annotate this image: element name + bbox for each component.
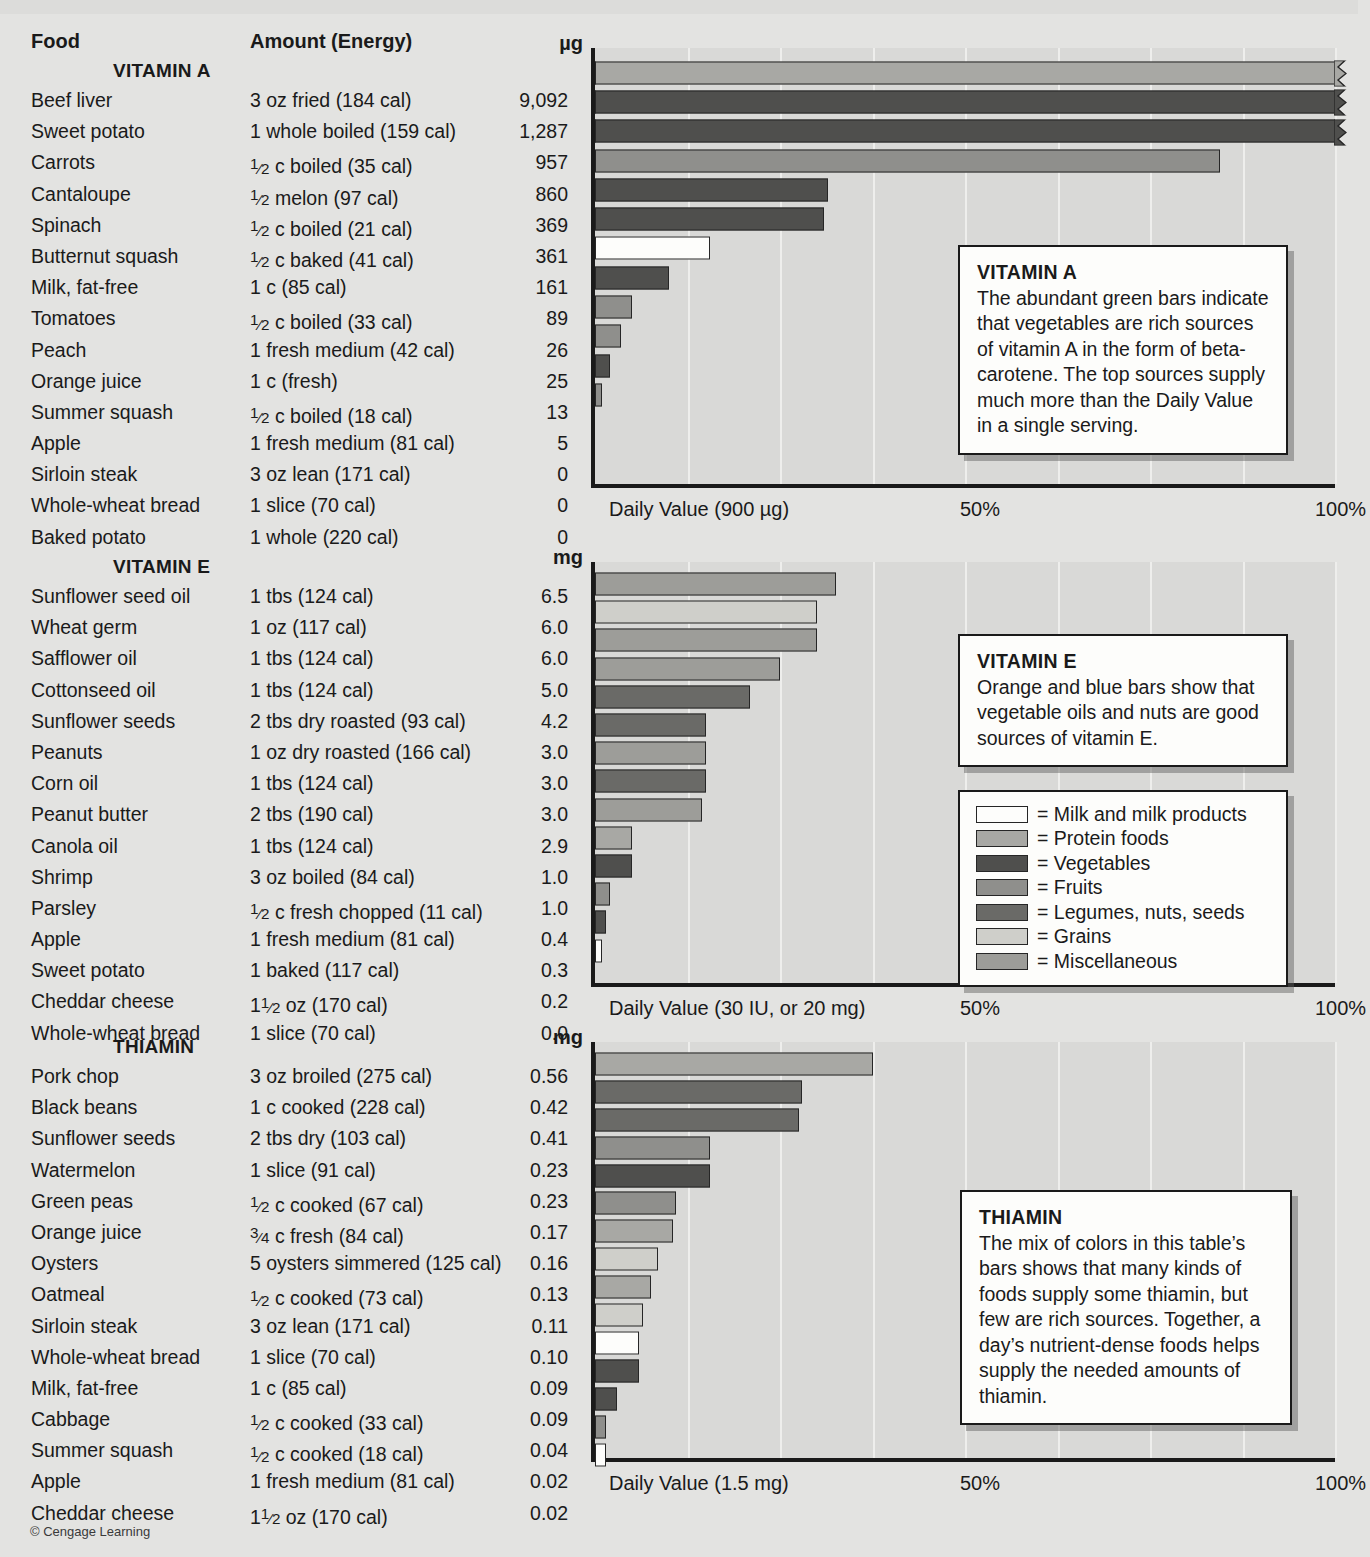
table-row: Whole-wheat bread1 slice (70 cal)0 [0,490,578,521]
legend-swatch-grain [976,928,1028,945]
bar-row [595,598,1335,626]
row-value: 0.09 [530,1404,568,1435]
bar [595,266,669,289]
row-value: 369 [535,210,568,241]
row-value: 957 [535,147,568,178]
row-value: 0.3 [541,955,568,986]
legend-item-grain: = Grains [976,925,1272,950]
bar [595,1164,710,1187]
table-vitamin-e: VITAMIN E Sunflower seed oil1 tbs (124 c… [0,552,578,1049]
bar [595,855,632,878]
bar [595,90,1335,113]
table-row: Apple1 fresh medium (81 cal)0.02 [0,1466,578,1497]
bar-row [595,175,1335,204]
row-food-name: Summer squash [31,397,173,428]
legend-item-misc: = Miscellaneous [976,949,1272,974]
row-value: 9,092 [519,85,568,116]
row-value: 0.56 [530,1061,568,1092]
table-row: Sweet potato1 baked (117 cal)0.3 [0,955,578,986]
row-food-name: Sunflower seeds [31,1123,175,1154]
row-amount: 1 fresh medium (81 cal) [250,428,455,459]
bar [595,325,621,348]
row-value: 3.0 [541,799,568,830]
table-row: Peach1 fresh medium (42 cal)26 [0,335,578,366]
row-food-name: Milk, fat-free [31,1373,138,1404]
row-amount: 1 fresh medium (81 cal) [250,924,455,955]
row-amount: 3 oz boiled (84 cal) [250,862,415,893]
row-amount: 1 fresh medium (81 cal) [250,1466,455,1497]
table-row: Cabbage1⁄2 c cooked (33 cal)0.09 [0,1404,578,1435]
table-row: Beef liver3 oz fried (184 cal)9,092 [0,85,578,116]
row-food-name: Cottonseed oil [31,675,156,706]
legend-label: = Vegetables [1037,852,1150,875]
table-row: Black beans1 c cooked (228 cal)0.42 [0,1092,578,1123]
table-row: Corn oil1 tbs (124 cal)3.0 [0,768,578,799]
table-row: Apple1 fresh medium (81 cal)0.4 [0,924,578,955]
row-amount: 1 tbs (124 cal) [250,675,374,706]
bar-row [595,1050,1335,1078]
row-amount: 1 slice (91 cal) [250,1155,376,1186]
row-food-name: Beef liver [31,85,112,116]
row-value: 1.0 [541,893,568,924]
table-row: Watermelon1 slice (91 cal)0.23 [0,1155,578,1186]
row-value: 0.02 [530,1498,568,1529]
callout-thiamin: THIAMIN The mix of colors in this table’… [960,1190,1292,1425]
legend-swatch-milk [976,806,1028,823]
legend-label: = Fruits [1037,876,1103,899]
bar [595,178,828,201]
table-row: Summer squash1⁄2 c boiled (18 cal)13 [0,397,578,428]
bar [595,742,706,765]
row-value: 0.41 [530,1123,568,1154]
table-row: Cottonseed oil1 tbs (124 cal)5.0 [0,675,578,706]
legend-swatch-leg [976,904,1028,921]
legend-label: = Legumes, nuts, seeds [1037,901,1245,924]
bar [595,383,602,406]
row-amount: 3 oz lean (171 cal) [250,459,410,490]
row-food-name: Sunflower seed oil [31,581,190,612]
row-amount: 1 c cooked (228 cal) [250,1092,426,1123]
row-amount: 1 oz dry roasted (166 cal) [250,737,471,768]
bar [595,657,780,680]
bar [595,1387,617,1410]
gridline [1335,562,1337,983]
row-food-name: Orange juice [31,1217,142,1248]
row-value: 1.0 [541,862,568,893]
axis-tick-50: 50% [960,1472,1000,1495]
bar [595,883,610,906]
row-food-name: Oatmeal [31,1279,105,1310]
row-amount: 1 tbs (124 cal) [250,643,374,674]
row-value: 5.0 [541,675,568,706]
bar [595,1331,639,1354]
row-food-name: Butternut squash [31,241,178,272]
bar [595,1192,676,1215]
legend-item-prot: = Protein foods [976,827,1272,852]
bar [595,939,602,962]
table-row: Baked potato1 whole (220 cal)0 [0,522,578,553]
table-row: Green peas1⁄2 c cooked (67 cal)0.23 [0,1186,578,1217]
table-row: Peanuts1 oz dry roasted (166 cal)3.0 [0,737,578,768]
legend-label: = Milk and milk products [1037,803,1247,826]
row-food-name: Oysters [31,1248,98,1279]
table-row: Safflower oil1 tbs (124 cal)6.0 [0,643,578,674]
row-amount: 3 oz lean (171 cal) [250,1311,410,1342]
row-food-name: Black beans [31,1092,137,1123]
row-amount: 1 tbs (124 cal) [250,581,374,612]
row-food-name: Shrimp [31,862,93,893]
table-row: Sunflower seed oil1 tbs (124 cal)6.5 [0,581,578,612]
bar-row [595,58,1335,87]
axis-tick-50: 50% [960,498,1000,521]
chart-unit-label: mg [523,1026,583,1049]
axis-break-zigzag-icon [1334,61,1347,87]
row-food-name: Wheat germ [31,612,137,643]
table-row: Whole-wheat bread1 slice (70 cal)0.10 [0,1342,578,1373]
row-value: 0.11 [531,1311,568,1342]
row-value: 860 [535,179,568,210]
chart-unit-label: µg [523,32,583,55]
row-value: 3.0 [541,737,568,768]
copyright-notice: © Cengage Learning [30,1524,150,1539]
row-amount: 5 oysters simmered (125 cal) [250,1248,501,1279]
axis-break-zigzag-icon [1334,119,1347,145]
row-food-name: Sunflower seeds [31,706,175,737]
section-title-thiamin: THIAMIN [0,1032,578,1061]
row-food-name: Milk, fat-free [31,272,138,303]
